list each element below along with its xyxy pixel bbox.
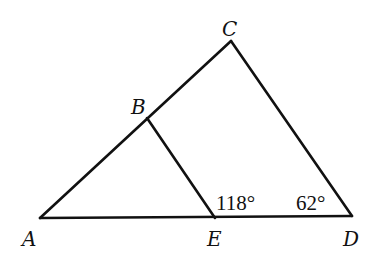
angle-cde-label: 62° [296, 191, 325, 215]
segment-ac [40, 41, 231, 218]
segment-be [147, 118, 215, 218]
label-e: E [206, 227, 222, 251]
diagram-canvas: C B A E D 118° 62° [0, 0, 381, 254]
label-d: D [342, 227, 359, 251]
segment-cd [231, 41, 352, 216]
label-a: A [20, 227, 36, 251]
angle-bed-label: 118° [216, 191, 255, 215]
label-c: C [222, 17, 237, 41]
geometry-diagram: C B A E D 118° 62° [0, 0, 381, 254]
label-b: B [130, 95, 146, 119]
segment-ad [40, 216, 352, 218]
